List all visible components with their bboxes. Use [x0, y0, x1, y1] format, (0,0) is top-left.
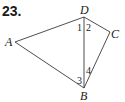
angle-label-2: 2: [86, 22, 91, 33]
angle-label-3: 3: [77, 75, 82, 86]
angle-label-4: 4: [86, 65, 91, 76]
quadrilateral-diagram: D C A B 1 2 3 4: [0, 0, 125, 102]
vertex-label-A: A: [4, 35, 13, 49]
vertex-label-C: C: [111, 27, 120, 41]
vertex-label-B: B: [80, 89, 88, 102]
diagram-canvas: 23. D C A B 1 2 3 4: [0, 0, 125, 102]
angle-label-1: 1: [77, 22, 82, 33]
segment-AD: [15, 17, 84, 42]
segment-CB: [84, 32, 110, 88]
vertex-label-D: D: [79, 3, 89, 17]
segment-AB: [15, 42, 84, 88]
